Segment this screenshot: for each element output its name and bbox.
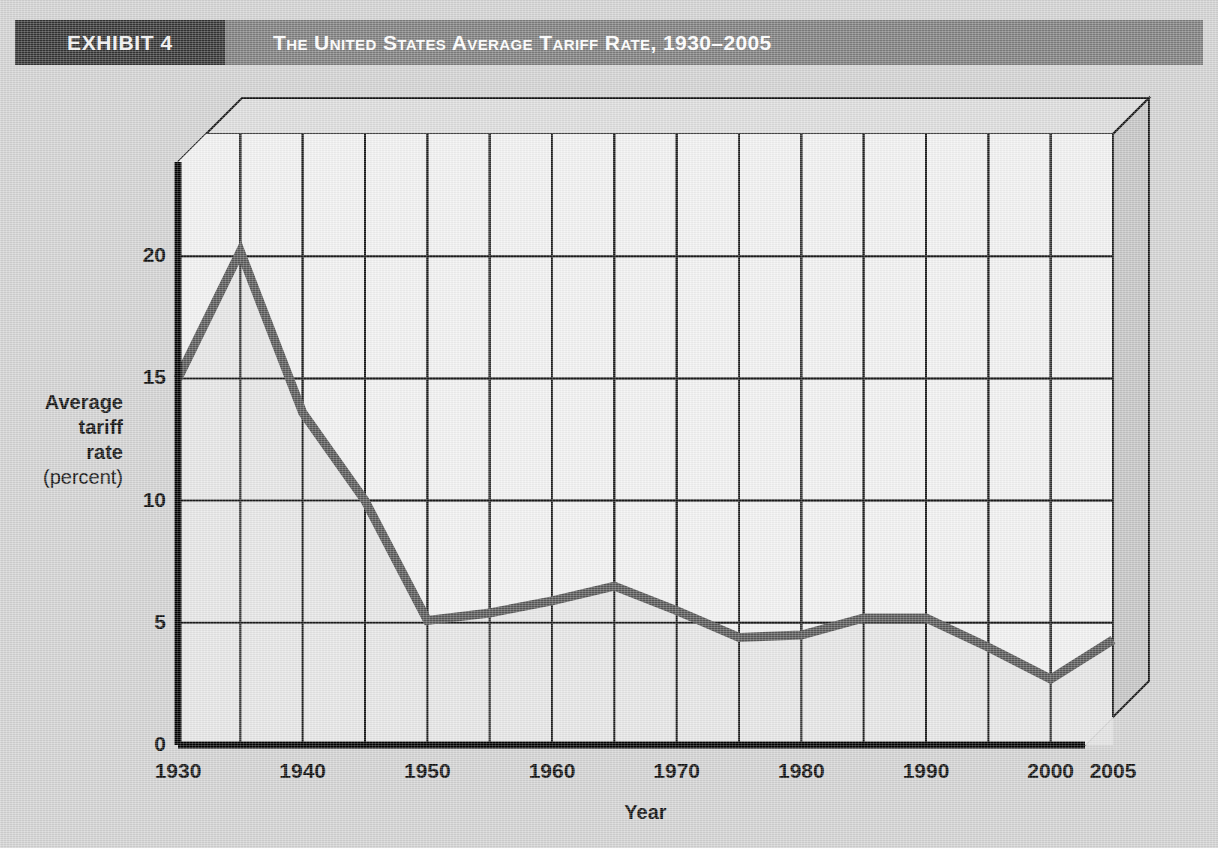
- y-axis-title-line: tariff: [3, 415, 123, 440]
- chart-stage: 05101520 1930194019501960197019801990200…: [0, 0, 1218, 848]
- y-axis-title: Averagetariffrate(percent): [3, 390, 123, 490]
- x-tick-label: 1980: [756, 759, 846, 783]
- y-tick-label: 20: [120, 243, 166, 267]
- x-tick-label: 1990: [881, 759, 971, 783]
- y-tick-label: 15: [120, 365, 166, 389]
- x-tick-label: 1960: [507, 759, 597, 783]
- y-tick-label: 5: [120, 610, 166, 634]
- y-tick-label: 0: [120, 732, 166, 756]
- x-tick-label: 1930: [133, 759, 223, 783]
- y-tick-label: 10: [120, 488, 166, 512]
- x-axis-title: Year: [546, 801, 746, 824]
- x-tick-label: 1970: [632, 759, 722, 783]
- tariff-line-chart: [0, 0, 1218, 848]
- x-tick-label: 1940: [258, 759, 348, 783]
- x-tick-label: 1950: [382, 759, 472, 783]
- y-axis-title-line: Average: [3, 390, 123, 415]
- y-axis-title-unit: (percent): [3, 465, 123, 490]
- y-axis-title-line: rate: [3, 440, 123, 465]
- x-tick-label: 2005: [1068, 759, 1158, 783]
